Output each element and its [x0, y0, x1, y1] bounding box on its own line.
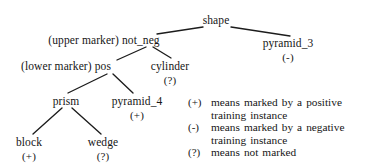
- tree-edge-not_neg-to-pos: [117, 47, 146, 60]
- tree-node-marker-wedge: (?): [88, 150, 119, 162]
- tree-node-pyramid_4: pyramid_4(+): [112, 95, 163, 121]
- tree-node-label-shape: shape: [203, 14, 230, 26]
- legend: (+) means marked by a positive training …: [188, 96, 344, 159]
- legend-row: (?) means not marked: [188, 146, 344, 159]
- legend-symbol-positive: (+): [188, 96, 211, 109]
- tree-edge-not_neg-to-cylinder: [153, 47, 171, 58]
- tree-node-shape: shape: [203, 14, 230, 26]
- tree-node-not_neg: (upper marker) not_neg: [48, 34, 159, 46]
- legend-text-positive: means marked by a positive training inst…: [211, 96, 344, 121]
- tree-node-block: block(+): [16, 136, 42, 162]
- tree-node-label-not_neg: (upper marker) not_neg: [48, 34, 159, 46]
- legend-text-negative: means marked by a negative training inst…: [211, 121, 344, 146]
- tree-node-label-cylinder: cylinder: [151, 60, 189, 72]
- legend-symbol-negative: (-): [188, 121, 211, 134]
- tree-node-prism: prism: [53, 95, 80, 107]
- tree-edge-pos-to-pyramid_4: [113, 74, 133, 93]
- legend-text-negative-line1: means marked by a negative: [211, 121, 344, 133]
- legend-text-unmarked: means not marked: [211, 146, 344, 159]
- legend-text-positive-line2: training instance: [211, 109, 344, 122]
- tree-edge-shape-to-not_neg: [157, 27, 203, 34]
- tree-node-label-pyramid_4: pyramid_4: [112, 95, 163, 107]
- tree-edge-shape-to-pyramid_3: [231, 27, 290, 36]
- tree-node-marker-pyramid_3: (-): [263, 51, 314, 63]
- tree-edge-pos-to-prism: [68, 74, 107, 93]
- tree-node-label-pyramid_3: pyramid_3: [263, 37, 314, 49]
- tree-node-wedge: wedge(?): [88, 136, 119, 162]
- tree-node-marker-cylinder: (?): [151, 74, 189, 86]
- legend-symbol-unmarked: (?): [188, 146, 211, 159]
- tree-node-label-pos: (lower marker) pos: [21, 60, 111, 72]
- tree-edge-prism-to-block: [33, 108, 62, 134]
- tree-node-label-prism: prism: [53, 95, 80, 107]
- tree-edge-prism-to-wedge: [72, 108, 101, 134]
- legend-row: (+) means marked by a positive training …: [188, 96, 344, 121]
- tree-node-pos: (lower marker) pos: [21, 60, 111, 72]
- legend-row: (-) means marked by a negative training …: [188, 121, 344, 146]
- legend-text-unmarked-line1: means not marked: [211, 146, 296, 158]
- tree-diagram-figure: shape(upper marker) not_negpyramid_3(-)(…: [0, 0, 365, 166]
- tree-node-cylinder: cylinder(?): [151, 60, 189, 86]
- tree-node-marker-block: (+): [16, 150, 42, 162]
- tree-node-marker-pyramid_4: (+): [112, 109, 163, 121]
- tree-node-label-wedge: wedge: [88, 136, 119, 148]
- tree-node-label-block: block: [16, 136, 42, 148]
- legend-text-positive-line1: means marked by a positive: [211, 96, 342, 108]
- legend-text-negative-line2: training instance: [211, 134, 344, 147]
- tree-node-pyramid_3: pyramid_3(-): [263, 37, 314, 63]
